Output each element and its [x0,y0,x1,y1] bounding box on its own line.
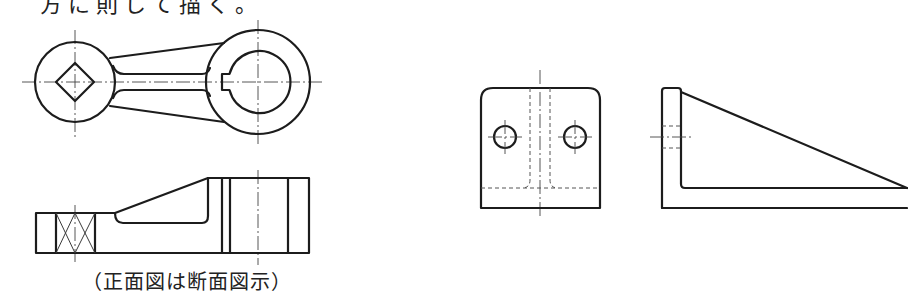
bracket-side-view [650,88,907,208]
arm-upper-edge [110,43,224,58]
lever-top-view [22,20,325,145]
rib-upper-line [113,66,210,74]
rib-lower-line [113,90,210,98]
figure-caption: （正面図は断面図示） [82,266,292,293]
bracket-front-outline [481,88,600,208]
rib-section-edge [115,178,208,223]
bracket-front-view [481,70,600,218]
lever-front-view [36,170,309,265]
front-view-outline [36,178,309,253]
bracket-side-outline-upper [662,88,907,208]
hidden-web-left [522,88,530,188]
hidden-web-right [550,88,558,188]
gusset-slope [681,92,907,188]
technical-drawing [0,0,908,293]
arm-lower-edge [110,106,224,122]
